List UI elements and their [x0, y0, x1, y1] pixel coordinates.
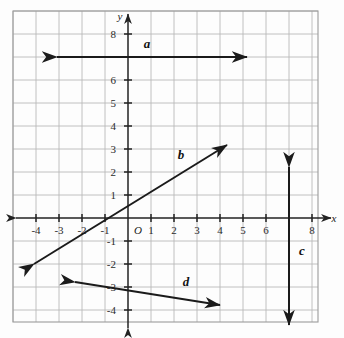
y-tick-label: 1 — [111, 189, 117, 201]
line-b-label: b — [178, 147, 185, 162]
line-c-label: c — [299, 243, 305, 258]
y-tick-label: -1 — [107, 235, 116, 247]
y-tick-label: 4 — [111, 120, 117, 132]
line-b — [34, 145, 227, 264]
x-tick-label: 8 — [309, 224, 315, 236]
x-tick-label: 5 — [240, 224, 246, 236]
y-tick-label: -4 — [107, 304, 117, 316]
y-tick-label: 6 — [111, 74, 117, 86]
coordinate-grid-svg: -4 -3 -2 -1 1 2 3 4 5 6 8 8 6 5 4 3 2 1 … — [0, 0, 344, 338]
x-axis-label: x — [331, 212, 337, 224]
x-tick-label: 3 — [194, 224, 200, 236]
y-tick-label: 3 — [111, 143, 117, 155]
y-tick-label: 2 — [111, 166, 117, 178]
y-tick-label: 5 — [111, 97, 117, 109]
origin-label: O — [134, 224, 142, 236]
x-tick-labels: -4 -3 -2 -1 1 2 3 4 5 6 8 — [31, 224, 315, 236]
x-tick-label: -3 — [54, 224, 64, 236]
line-d — [75, 282, 220, 305]
line-a-label: a — [144, 36, 151, 51]
x-tick-label: 2 — [171, 224, 177, 236]
y-tick-label: 8 — [111, 28, 117, 40]
coordinate-plane-figure: -4 -3 -2 -1 1 2 3 4 5 6 8 8 6 5 4 3 2 1 … — [0, 0, 344, 338]
x-tick-label: 1 — [148, 224, 154, 236]
x-tick-label: -4 — [31, 224, 41, 236]
x-tick-label: 4 — [217, 224, 223, 236]
y-axis-label: y — [117, 10, 123, 22]
x-tick-label: 6 — [263, 224, 269, 236]
y-tick-label: -2 — [107, 258, 116, 270]
line-d-label: d — [183, 274, 190, 289]
